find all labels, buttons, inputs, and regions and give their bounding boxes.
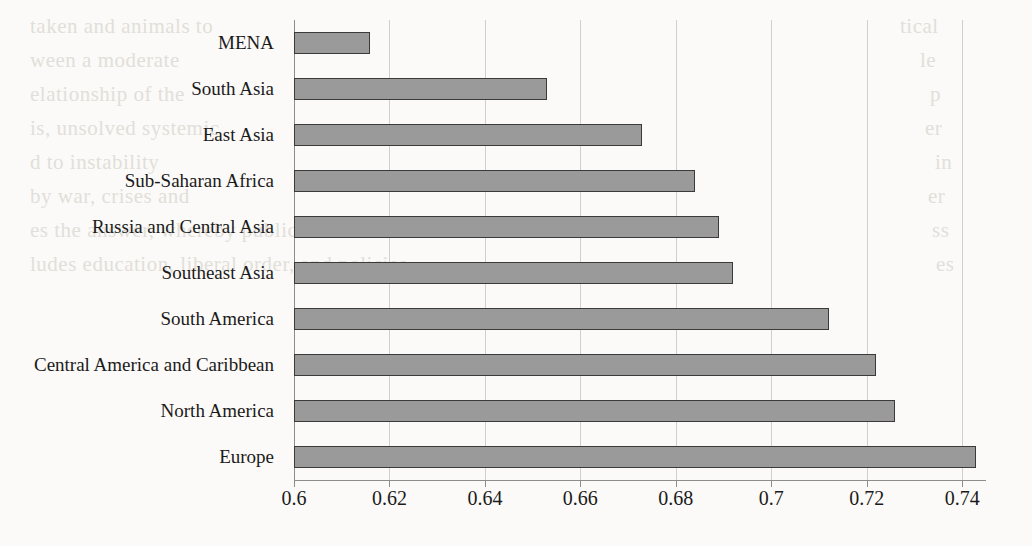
bar <box>294 354 876 376</box>
y-axis-category-label: South America <box>161 308 274 330</box>
x-axis-tick <box>294 480 295 487</box>
x-axis-tick <box>389 480 390 487</box>
x-axis-tick-label: 0.7 <box>759 487 784 510</box>
bar <box>294 170 695 192</box>
x-axis-tick-labels: 0.60.620.640.660.680.70.720.74 <box>0 487 1032 527</box>
bar <box>294 400 895 422</box>
gridline <box>962 20 963 480</box>
plot-area <box>294 20 986 480</box>
x-axis-tick-label: 0.74 <box>945 487 980 510</box>
bar <box>294 262 733 284</box>
x-axis-tick <box>485 480 486 487</box>
x-axis-tick <box>867 480 868 487</box>
x-axis-tick-label: 0.64 <box>467 487 502 510</box>
y-axis-category-labels: MENASouth AsiaEast AsiaSub-Saharan Afric… <box>0 20 286 480</box>
y-axis-category-label: Southeast Asia <box>162 262 274 284</box>
x-axis-tick <box>962 480 963 487</box>
bar <box>294 446 976 468</box>
y-axis-category-label: Russia and Central Asia <box>92 216 274 238</box>
x-axis-tick <box>676 480 677 487</box>
bar <box>294 124 642 146</box>
bar <box>294 32 370 54</box>
y-axis-category-label: East Asia <box>203 124 274 146</box>
y-axis-category-label: Sub-Saharan Africa <box>125 170 274 192</box>
x-axis-tick-label: 0.6 <box>282 487 307 510</box>
y-axis-category-label: MENA <box>218 32 274 54</box>
y-axis-category-label: North America <box>161 400 274 422</box>
x-axis-tick-label: 0.72 <box>849 487 884 510</box>
x-axis-tick-label: 0.68 <box>658 487 693 510</box>
bar <box>294 308 829 330</box>
bar <box>294 216 719 238</box>
x-axis-tick-label: 0.62 <box>372 487 407 510</box>
x-axis-tick <box>580 480 581 487</box>
bar <box>294 78 547 100</box>
y-axis-category-label: Central America and Caribbean <box>34 354 274 376</box>
x-axis-tick <box>771 480 772 487</box>
x-axis-tick-label: 0.66 <box>563 487 598 510</box>
horizontal-bar-chart: MENASouth AsiaEast AsiaSub-Saharan Afric… <box>0 0 1032 546</box>
y-axis-category-label: Europe <box>219 446 274 468</box>
y-axis-category-label: South Asia <box>191 78 274 100</box>
x-axis-line <box>294 480 986 481</box>
